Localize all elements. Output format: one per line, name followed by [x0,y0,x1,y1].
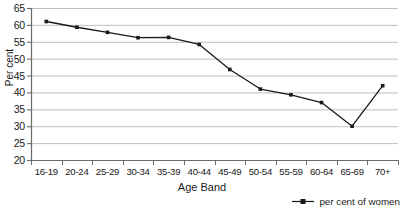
data-point-marker [75,25,79,29]
x-tick-label: 30-34 [126,167,149,177]
x-axis-title: Age Band [0,181,404,193]
x-tick-label: 70+ [375,167,391,177]
y-tick-label: 30 [14,121,25,132]
x-tick-label: 20-24 [65,167,88,177]
series-line [46,22,382,127]
data-point-marker [259,87,263,91]
data-series-per-cent-of-women [31,8,398,160]
data-point-marker [167,36,171,40]
data-point-marker [320,101,324,105]
legend-label: per cent of women [319,196,400,207]
data-point-marker [289,93,293,97]
data-point-marker [106,31,110,35]
y-tick-label: 50 [14,53,25,64]
x-tick-mark [215,160,216,165]
x-tick-label: 55-59 [279,167,302,177]
x-tick-mark [245,160,246,165]
data-point-marker [381,84,385,88]
x-tick-label: 25-29 [96,167,119,177]
plot-area [31,8,398,160]
data-point-marker [136,36,140,40]
legend: per cent of women [292,196,400,207]
y-tick-label: 35 [14,104,25,115]
x-tick-mark [306,160,307,165]
x-tick-mark [123,160,124,165]
y-tick-label: 40 [14,87,25,98]
data-point-marker [197,43,201,47]
y-tick-label: 20 [14,155,25,166]
x-tick-mark [276,160,277,165]
y-tick-label: 25 [14,138,25,149]
y-tick-label: 65 [14,3,25,14]
line-chart: 20253035404550556065 Per cent 16-1920-24… [0,0,404,214]
x-tick-mark [92,160,93,165]
legend-line-marker-icon [292,197,314,206]
data-point-marker [350,124,354,128]
x-tick-mark [367,160,368,165]
y-axis-title: Per cent [4,38,15,98]
x-tick-label: 40-44 [188,167,211,177]
x-tick-mark [398,160,399,165]
x-tick-mark [184,160,185,165]
x-tick-mark [31,160,32,165]
y-tick-label: 45 [14,70,25,81]
x-axis: 16-1920-2425-2930-3435-3940-4445-4950-54… [31,160,398,178]
x-tick-label: 65-69 [340,167,363,177]
data-point-marker [228,68,232,72]
x-tick-label: 45-49 [218,167,241,177]
y-tick-label: 55 [14,37,25,48]
x-tick-label: 35-39 [157,167,180,177]
x-tick-mark [62,160,63,165]
y-tick-label: 60 [14,20,25,31]
x-tick-label: 50-54 [249,167,272,177]
x-tick-label: 16-19 [35,167,58,177]
data-point-marker [44,20,48,24]
x-tick-mark [153,160,154,165]
x-tick-label: 60-64 [310,167,333,177]
x-tick-mark [337,160,338,165]
